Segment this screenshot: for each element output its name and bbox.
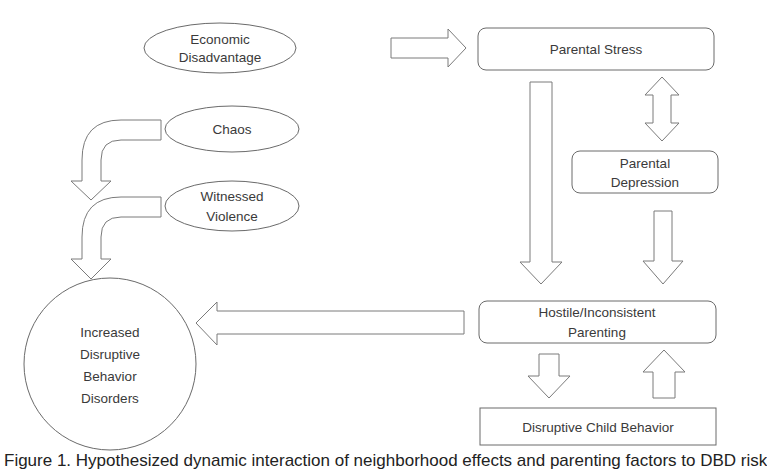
arrow-down-hostile-to-child xyxy=(528,354,570,398)
node-label: Economic xyxy=(190,32,250,47)
arrow-up-child-to-hostile xyxy=(643,350,685,398)
arrow-bent-chaos xyxy=(71,120,161,200)
node-label: Violence xyxy=(206,209,258,224)
node-parental-depression: Parental Depression xyxy=(572,151,718,193)
figure-caption: Figure 1. Hypothesized dynamic interacti… xyxy=(4,451,748,471)
node-witnessed-violence: Witnessed Violence xyxy=(165,181,299,231)
node-hostile-inconsistent-parenting: Hostile/Inconsistent Parenting xyxy=(479,301,716,343)
node-label: Hostile/Inconsistent xyxy=(538,305,655,320)
node-increased-dbd: Increased Disruptive Behavior Disorders xyxy=(24,278,196,450)
node-label: Increased xyxy=(80,325,139,340)
node-label: Witnessed xyxy=(200,189,263,204)
arrow-down-depression-to-hostile xyxy=(643,211,683,284)
arrow-right-economic-to-stress xyxy=(391,29,466,67)
arrow-down-stress-to-hostile xyxy=(520,82,562,284)
arrow-bidirectional-stress-depression xyxy=(645,77,679,141)
arrow-left-hostile-to-dbd xyxy=(196,302,464,345)
node-parental-stress: Parental Stress xyxy=(478,28,714,70)
arrow-bent-witnessed-violence xyxy=(71,197,161,279)
node-label: Chaos xyxy=(212,122,251,137)
node-label: Parental Stress xyxy=(550,42,643,57)
node-economic-disadvantage: Economic Disadvantage xyxy=(144,23,296,73)
node-label: Parenting xyxy=(568,325,626,340)
node-label: Disorders xyxy=(81,391,139,406)
node-label: Disruptive Child Behavior xyxy=(522,420,674,435)
node-label: Depression xyxy=(611,175,679,190)
node-label: Behavior xyxy=(83,369,137,384)
node-chaos: Chaos xyxy=(165,106,299,152)
node-label: Disadvantage xyxy=(179,50,262,65)
node-label: Disruptive xyxy=(80,347,140,362)
node-label: Parental xyxy=(620,156,670,171)
node-disruptive-child-behavior: Disruptive Child Behavior xyxy=(480,408,716,445)
